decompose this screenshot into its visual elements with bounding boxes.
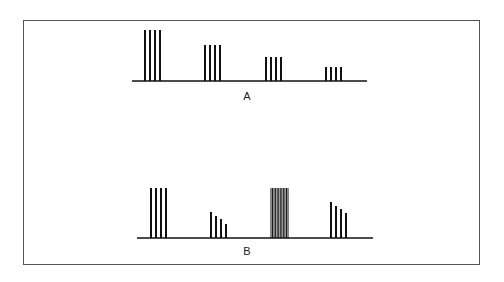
panel-label-b: B	[243, 245, 250, 257]
pulse-diagram	[0, 0, 504, 282]
panel-label-a: A	[243, 90, 250, 102]
